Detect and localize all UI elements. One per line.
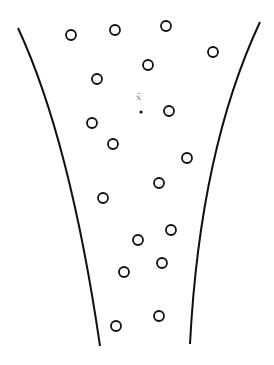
circle-point	[164, 106, 174, 116]
center-point	[139, 110, 142, 113]
left-boundary-curve	[18, 28, 100, 346]
circle-point	[182, 153, 192, 163]
circle-point	[157, 258, 167, 268]
circle-point	[143, 60, 153, 70]
funnel-diagram	[0, 0, 274, 365]
circle-point	[98, 193, 108, 203]
circle-point	[133, 235, 143, 245]
circle-point	[111, 321, 121, 331]
circle-point	[87, 118, 97, 128]
circle-point	[161, 21, 171, 31]
circle-point	[108, 139, 118, 149]
circle-point	[208, 47, 218, 57]
circle-point	[119, 267, 129, 277]
circle-point	[110, 25, 120, 35]
circle-point	[154, 311, 164, 321]
circle-point	[166, 225, 176, 235]
right-boundary-curve	[190, 22, 260, 344]
circle-point	[154, 178, 164, 188]
circle-point	[66, 30, 76, 40]
circle-point	[92, 74, 102, 84]
